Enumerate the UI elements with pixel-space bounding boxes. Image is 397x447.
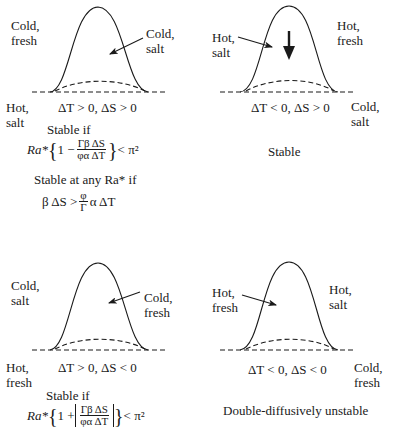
equation-top-left-1: Ra*{ 1 − Γβ ΔSφα ΔT }< π² [27,138,139,161]
equation-bottom-left: Ra*{ 1 + Γβ ΔSφα ΔT }< π² [27,404,145,427]
diagram-graphics [0,0,397,447]
label-cold-salt-bottom: Cold,salt [351,99,380,129]
label-hot-salt-inner: Hot,salt [212,30,235,60]
condition-bottom-right: ΔT < 0, ΔS < 0 [248,362,327,378]
label-hot-fresh-top: Hot,fresh [337,18,363,48]
stability-bottom-right: Double-diffusively unstable [223,403,368,419]
label-hot-fresh-inner: Hot,fresh [212,285,238,315]
label-cold-fresh-bottom: Cold,fresh [354,360,383,390]
stability-top-right: Stable [268,144,301,160]
condition-top-right: ΔT < 0, ΔS > 0 [251,100,330,116]
condition-bottom-left: ΔT > 0, ΔS < 0 [58,360,137,376]
equation-top-left-2: β ΔS > φΓ α ΔT [42,190,115,213]
condition-top-left: ΔT > 0, ΔS > 0 [58,100,137,116]
stability-top-left-line2: Stable at any Ra* if [34,172,137,188]
label-cold-salt-inner: Cold,salt [146,26,175,56]
stability-top-left-line1: Stable if [47,122,91,138]
label-hot-fresh-bottom: Hot,fresh [6,360,32,390]
label-cold-fresh-inner: Cold,fresh [144,290,173,320]
label-cold-salt-top: Cold,salt [11,278,40,308]
label-hot-salt-top: Hot,salt [329,282,352,312]
label-hot-salt-bottom: Hot,salt [6,100,29,130]
label-cold-fresh-top: Cold,fresh [11,18,40,48]
stability-bottom-left-line1: Stable if [46,388,90,404]
